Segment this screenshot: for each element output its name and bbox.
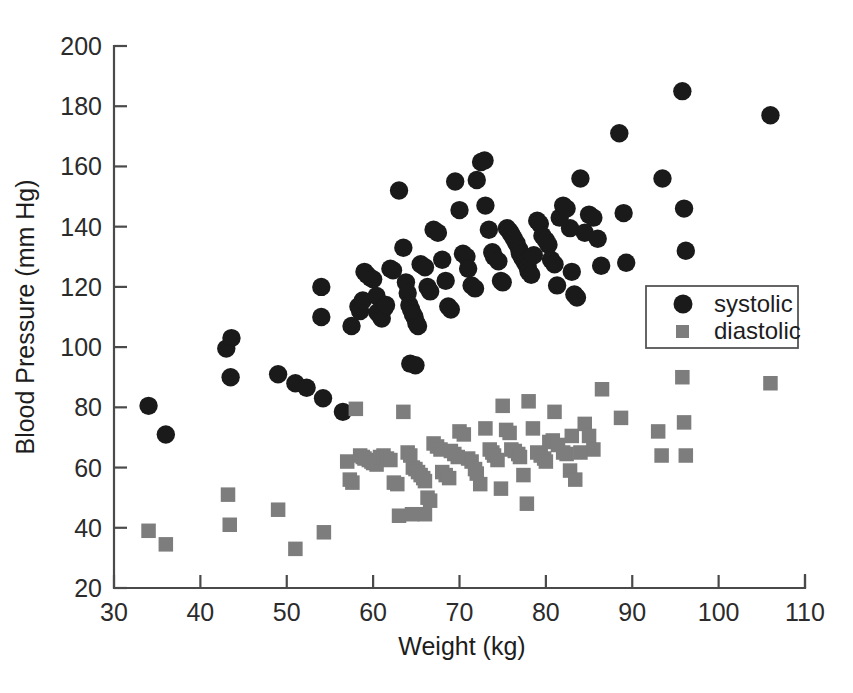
data-point-diastolic <box>677 415 692 430</box>
x-axis-title: Weight (kg) <box>398 632 525 660</box>
data-point-systolic <box>466 279 484 297</box>
data-point-diastolic <box>288 542 303 557</box>
data-point-systolic <box>450 201 468 219</box>
data-point-diastolic <box>494 481 509 496</box>
data-point-diastolic <box>383 453 398 468</box>
data-point-systolic <box>416 258 434 276</box>
data-point-systolic <box>364 270 382 288</box>
data-point-diastolic <box>526 421 541 436</box>
data-point-systolic <box>312 308 330 326</box>
data-point-diastolic <box>222 518 237 533</box>
data-point-diastolic <box>349 402 364 417</box>
data-point-diastolic <box>651 424 666 439</box>
data-point-systolic <box>557 199 575 217</box>
x-tick-label-50: 50 <box>273 598 301 626</box>
data-point-diastolic <box>520 496 535 511</box>
data-point-systolic <box>525 246 543 264</box>
data-point-systolic <box>673 82 691 100</box>
data-point-systolic <box>761 106 779 124</box>
data-point-diastolic <box>442 471 457 486</box>
data-point-diastolic <box>473 477 488 492</box>
data-point-diastolic <box>340 454 355 469</box>
y-tick-label-40: 40 <box>74 514 102 542</box>
data-point-systolic <box>377 296 395 314</box>
data-point-systolic <box>589 230 607 248</box>
data-point-systolic <box>269 365 287 383</box>
data-point-systolic <box>221 368 239 386</box>
data-point-systolic <box>592 257 610 275</box>
data-point-diastolic <box>521 394 536 409</box>
data-point-systolic <box>139 397 157 415</box>
data-point-diastolic <box>565 429 580 444</box>
data-point-diastolic <box>539 454 554 469</box>
x-tick-label-110: 110 <box>785 598 825 626</box>
data-point-diastolic <box>457 427 472 442</box>
data-point-systolic <box>421 282 439 300</box>
y-tick-label-60: 60 <box>74 454 102 482</box>
data-point-diastolic <box>595 382 610 397</box>
data-point-systolic <box>548 276 566 294</box>
y-tick-label-80: 80 <box>74 393 102 421</box>
y-tick-label-20: 20 <box>74 574 102 602</box>
data-point-systolic <box>394 239 412 257</box>
data-point-diastolic <box>390 477 405 492</box>
data-point-diastolic <box>478 421 493 436</box>
data-point-diastolic <box>614 411 629 426</box>
data-point-systolic <box>314 389 332 407</box>
y-tick-label-180: 180 <box>60 92 102 120</box>
data-point-systolic <box>675 199 693 217</box>
y-tick-label-160: 160 <box>60 152 102 180</box>
y-tick-label-100: 100 <box>60 333 102 361</box>
data-point-systolic <box>677 242 695 260</box>
y-tick-label-120: 120 <box>60 273 102 301</box>
data-point-systolic <box>493 273 511 291</box>
data-point-systolic <box>480 220 498 238</box>
data-point-diastolic <box>490 453 505 468</box>
x-tick-label-40: 40 <box>186 598 214 626</box>
data-point-systolic <box>442 300 460 318</box>
data-point-diastolic <box>568 472 583 487</box>
data-point-systolic <box>459 260 477 278</box>
data-point-systolic <box>653 169 671 187</box>
data-point-diastolic <box>159 537 174 552</box>
data-point-systolic <box>446 172 464 190</box>
x-tick-label-100: 100 <box>698 598 740 626</box>
data-point-systolic <box>563 263 581 281</box>
x-tick-label-80: 80 <box>532 598 560 626</box>
data-point-diastolic <box>573 445 588 460</box>
data-point-diastolic <box>675 370 690 385</box>
data-point-systolic <box>429 223 447 241</box>
data-point-diastolic <box>345 475 360 490</box>
data-point-diastolic <box>396 405 411 420</box>
data-point-systolic <box>571 169 589 187</box>
scatter-plot-figure: 2040608010012014016018020030405060708090… <box>0 0 853 693</box>
data-point-diastolic <box>679 448 694 463</box>
data-point-diastolic <box>405 507 420 522</box>
data-point-systolic <box>433 251 451 269</box>
legend-label-systolic: systolic <box>714 290 793 317</box>
data-point-diastolic <box>559 447 574 462</box>
chart-legend[interactable]: systolic diastolic <box>646 286 801 348</box>
data-point-diastolic <box>763 376 778 391</box>
data-point-systolic <box>476 196 494 214</box>
data-point-systolic <box>406 356 424 374</box>
x-tick-label-30: 30 <box>100 598 128 626</box>
data-point-diastolic <box>392 508 407 523</box>
plot-svg: 2040608010012014016018020030405060708090… <box>0 0 853 693</box>
data-point-diastolic <box>317 525 332 540</box>
x-tick-label-90: 90 <box>618 598 646 626</box>
data-point-diastolic <box>502 426 517 441</box>
data-point-systolic <box>312 278 330 296</box>
data-point-systolic <box>545 255 563 273</box>
legend-diastolic-square-marker-icon <box>676 325 689 338</box>
data-point-systolic <box>468 171 486 189</box>
data-point-systolic <box>475 151 493 169</box>
data-point-diastolic <box>423 493 438 508</box>
data-point-diastolic <box>547 405 562 420</box>
data-point-systolic <box>222 329 240 347</box>
data-point-systolic <box>617 254 635 272</box>
data-point-diastolic <box>516 468 531 483</box>
y-tick-label-200: 200 <box>60 32 102 60</box>
data-point-systolic <box>390 181 408 199</box>
x-tick-label-70: 70 <box>446 598 474 626</box>
